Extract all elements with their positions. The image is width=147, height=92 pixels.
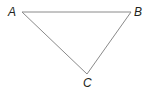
triangle-abc: [22, 12, 131, 74]
vertex-label-c: C: [83, 76, 92, 90]
vertex-label-b: B: [134, 5, 142, 19]
triangle-diagram: A B C: [0, 0, 147, 92]
vertex-label-a: A: [7, 5, 16, 19]
